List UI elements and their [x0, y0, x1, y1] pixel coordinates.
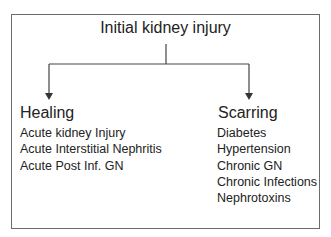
list-item: Acute kidney Injury — [20, 125, 162, 141]
list-item: Acute Post Inf. GN — [20, 158, 162, 174]
list-item: Hypertension — [217, 141, 317, 157]
arrow-down-icon — [245, 93, 253, 100]
scarring-list: Diabetes Hypertension Chronic GN Chronic… — [217, 125, 317, 206]
list-item: Chronic GN — [217, 158, 317, 174]
list-item: Chronic Infections — [217, 174, 317, 190]
list-item: Acute Interstitial Nephritis — [20, 141, 162, 157]
branch-title-healing: Healing — [20, 104, 74, 122]
list-item: Nephrotoxins — [217, 190, 317, 206]
arrow-down-icon — [45, 93, 53, 100]
branch-title-scarring: Scarring — [218, 104, 278, 122]
list-item: Diabetes — [217, 125, 317, 141]
healing-list: Acute kidney Injury Acute Interstitial N… — [20, 125, 162, 174]
